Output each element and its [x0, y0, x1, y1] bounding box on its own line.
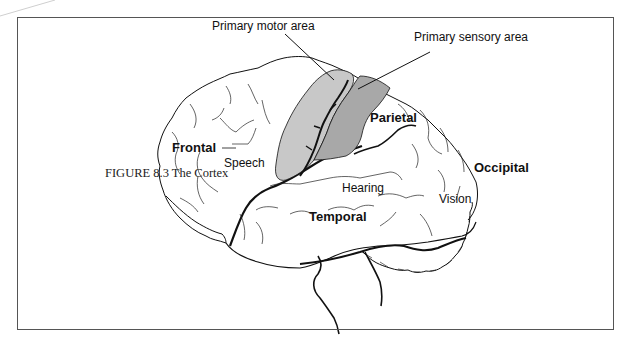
temporal-lobe-label: Temporal — [309, 210, 367, 223]
primary-motor-area-label: Primary motor area — [212, 20, 315, 32]
figure-caption: FIGURE 8.3 The Cortex — [105, 166, 228, 181]
page-corner-line — [0, 0, 55, 16]
primary-sensory-area-label: Primary sensory area — [414, 31, 528, 43]
page: FIGURE 8.3 The Cortex Primary motor area… — [0, 0, 635, 358]
parietal-lobe-label: Parietal — [370, 111, 417, 124]
vision-label: Vision — [439, 193, 471, 205]
speech-label: Speech — [224, 157, 265, 169]
frontal-lobe-label: Frontal — [172, 141, 216, 154]
occipital-lobe-label: Occipital — [474, 161, 529, 174]
hearing-label: Hearing — [342, 182, 384, 194]
